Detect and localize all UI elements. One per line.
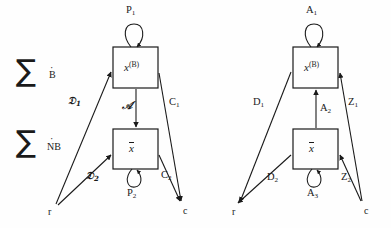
left-label-c1: C1 bbox=[169, 97, 180, 109]
right-label-z1: Z1 bbox=[348, 97, 358, 109]
left-top-box-label: x(B) bbox=[124, 61, 139, 73]
left-label-c2: C2 bbox=[161, 170, 172, 182]
left-label-p2: P2 bbox=[127, 188, 136, 200]
right-bottom-box bbox=[293, 129, 338, 169]
sigma-nb-subscript: NB bbox=[47, 141, 61, 152]
figure-canvas: ∑ · B ∑ · NB x(B) x P1 P2 𝔇1 𝔇2 C1 C2 𝒜 … bbox=[0, 0, 391, 228]
right-top-box-sup: (B) bbox=[309, 60, 319, 69]
right-label-a2: A2 bbox=[320, 103, 331, 115]
right-top-box-label: x(B) bbox=[304, 61, 319, 73]
right-edge-d1 bbox=[240, 72, 291, 202]
left-top-box-sup: (B) bbox=[129, 60, 139, 69]
left-bottom-box bbox=[113, 129, 158, 169]
left-bottom-box-base: x bbox=[129, 142, 134, 154]
right-bottom-box-label: x bbox=[309, 142, 314, 154]
sigma-b: ∑ · B bbox=[16, 56, 36, 86]
right-terminal-c: c bbox=[364, 206, 368, 216]
right-label-a3: A3 bbox=[307, 188, 318, 200]
left-bottom-box-label: x bbox=[129, 142, 134, 154]
right-label-d2: D2 bbox=[267, 172, 278, 184]
right-label-d1: D1 bbox=[253, 97, 264, 109]
left-label-p1: P1 bbox=[126, 5, 135, 17]
right-label-a1: A1 bbox=[306, 5, 317, 17]
sigma-nb: ∑ · NB bbox=[16, 127, 36, 157]
right-selfloop-a1 bbox=[305, 24, 322, 47]
right-edge-d2 bbox=[238, 155, 291, 203]
left-terminal-c: c bbox=[183, 206, 187, 216]
left-label-d2: 𝔇2 bbox=[86, 170, 99, 182]
right-selfloop-a3 bbox=[307, 169, 321, 187]
left-selfloop-p1 bbox=[125, 24, 142, 47]
sigma-b-subscript: B bbox=[49, 69, 56, 80]
right-label-z2: Z2 bbox=[341, 172, 351, 184]
right-terminal-r: r bbox=[232, 207, 235, 217]
right-bottom-box-base: x bbox=[309, 142, 314, 154]
sigma-nb-glyph: ∑ bbox=[16, 127, 36, 157]
left-edge-d1 bbox=[56, 72, 111, 204]
diagram-vector-layer bbox=[0, 0, 391, 228]
left-label-alpha: 𝒜 bbox=[122, 100, 132, 111]
left-selfloop-p2 bbox=[127, 169, 141, 187]
left-label-d1: 𝔇1 bbox=[68, 95, 81, 107]
left-terminal-r: r bbox=[48, 207, 51, 217]
sigma-b-glyph: ∑ bbox=[16, 56, 36, 86]
